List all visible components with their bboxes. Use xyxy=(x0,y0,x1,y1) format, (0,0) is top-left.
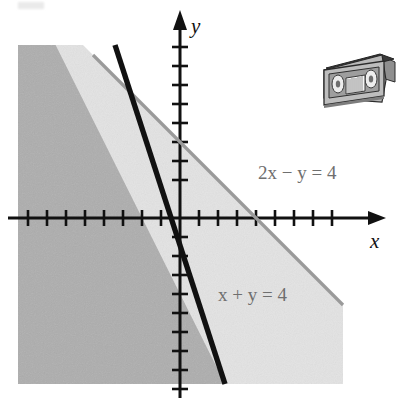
equation-label-x-plus-y: x + y = 4 xyxy=(218,284,287,305)
x-axis-arrowhead xyxy=(368,211,386,225)
vhs-cassette-icon xyxy=(316,52,396,114)
vhs-left-hub xyxy=(336,80,340,87)
vhs-right-hub xyxy=(369,75,373,82)
x-axis-label: x xyxy=(369,229,380,253)
figure-root: x xyxy=(0,0,404,408)
y-axis-arrowhead xyxy=(173,10,187,30)
y-axis-label: y xyxy=(189,14,201,38)
equation-label-2x-minus-y: 2x − y = 4 xyxy=(258,162,337,183)
